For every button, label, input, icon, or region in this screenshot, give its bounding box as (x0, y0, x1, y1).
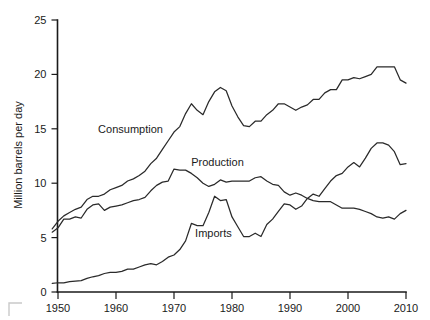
chart-figure: 0510152025 1950196019701980199020002010 … (0, 0, 430, 320)
y-tick-label: 10 (34, 177, 46, 189)
annotation-imports: Imports (195, 227, 232, 239)
y-tick-label: 20 (34, 68, 46, 80)
x-tick-label: 1980 (220, 302, 244, 314)
y-tick-label: 15 (34, 123, 46, 135)
x-tick-label: 1970 (162, 302, 186, 314)
x-tick-label: 2000 (336, 302, 360, 314)
annotation-production: Production (191, 156, 244, 168)
x-tick-label: 2010 (394, 302, 418, 314)
x-tick-label: 1950 (46, 302, 70, 314)
y-tick-label: 5 (40, 232, 46, 244)
x-tick-label: 1960 (104, 302, 128, 314)
y-tick-label: 25 (34, 14, 46, 26)
annotation-consumption: Consumption (98, 123, 163, 135)
oil-trends-line-chart: 0510152025 1950196019701980199020002010 … (0, 0, 430, 320)
x-tick-label: 1990 (278, 302, 302, 314)
y-tick-label: 0 (40, 286, 46, 298)
y-axis-title: Million barrels per day (12, 101, 24, 209)
